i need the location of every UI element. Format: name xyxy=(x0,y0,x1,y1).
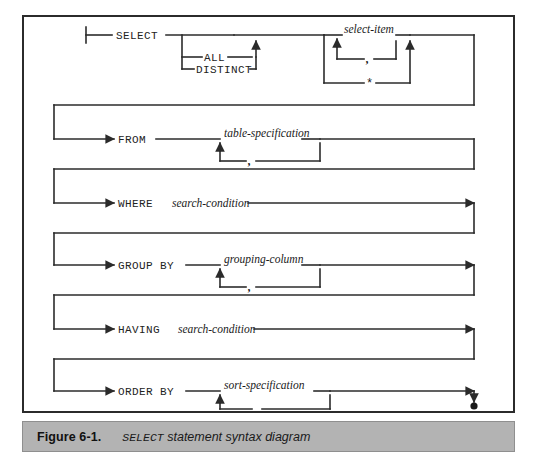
keyword-from: FROM xyxy=(118,134,146,146)
keyword-select: SELECT xyxy=(116,30,158,42)
end-terminal xyxy=(470,391,477,410)
keyword-all: ALL xyxy=(204,52,225,64)
nonterminal-select-item: select-item xyxy=(344,23,394,35)
end-dot-icon xyxy=(470,402,477,409)
keyword-distinct: DISTINCT xyxy=(196,64,252,76)
nonterminal-sort-specification: sort-specification xyxy=(224,379,305,392)
keyword-order-by: ORDER BY xyxy=(118,386,174,398)
clause-group-by: GROUP BY grouping-column , xyxy=(54,253,474,329)
figure-caption-rest: statement syntax diagram xyxy=(164,430,311,444)
symbol-comma-from: , xyxy=(247,154,251,168)
keyword-having: HAVING xyxy=(118,324,160,336)
keyword-where: WHERE xyxy=(118,198,153,210)
nonterminal-table-specification: table-specification xyxy=(224,127,310,140)
figure-caption: SELECT statement syntax diagram xyxy=(122,430,310,444)
nonterminal-search-condition-where: search-condition xyxy=(172,197,250,209)
keyword-group-by: GROUP BY xyxy=(118,260,174,272)
symbol-comma-groupby: , xyxy=(247,280,251,294)
terminal-star: * xyxy=(366,77,373,91)
figure-number: Figure 6-1. xyxy=(37,430,101,444)
symbol-comma-orderby: , xyxy=(253,402,257,411)
page-canvas: SELECT ALL DISTINCT xyxy=(0,0,535,466)
clause-from: FROM table-specification , xyxy=(54,127,474,203)
nonterminal-grouping-column: grouping-column xyxy=(224,253,304,266)
clause-select: SELECT ALL DISTINCT xyxy=(54,23,474,139)
syntax-diagram-frame: SELECT ALL DISTINCT xyxy=(22,15,515,413)
railroad-diagram-svg: SELECT ALL DISTINCT xyxy=(24,17,513,411)
figure-caption-keyword: SELECT xyxy=(122,431,163,444)
clause-order-by: ORDER BY sort-specification , xyxy=(54,379,474,411)
nonterminal-search-condition-having: search-condition xyxy=(178,323,256,335)
symbol-comma: , xyxy=(365,52,369,66)
figure-caption-bar: Figure 6-1. SELECT statement syntax diag… xyxy=(22,421,515,452)
